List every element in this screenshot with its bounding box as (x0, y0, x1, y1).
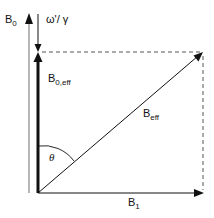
b0eff-vector (34, 52, 43, 193)
b1-arrowhead-icon (194, 189, 204, 197)
vector-diagram-svg (0, 0, 214, 218)
b0eff-arrowhead-icon (34, 52, 43, 62)
beff-label: Beff (143, 108, 159, 122)
omega-gamma-label: ω'/ γ (46, 14, 68, 25)
omega-arrowhead-icon (35, 44, 42, 52)
b1-vector (38, 189, 204, 197)
b0-label: B0 (5, 14, 17, 28)
effective-field-diagram: B0 ω'/ γ B0,eff Beff θ B1 (0, 0, 214, 218)
b0-arrowhead-icon (25, 13, 33, 24)
b0eff-label: B0,eff (48, 73, 71, 87)
beff-arrowhead-icon (194, 52, 204, 62)
omega-gamma-vector (35, 14, 42, 52)
theta-arc (38, 146, 74, 161)
theta-label: θ (49, 152, 54, 163)
b1-label: B1 (128, 197, 140, 211)
b0-vector (25, 13, 33, 193)
